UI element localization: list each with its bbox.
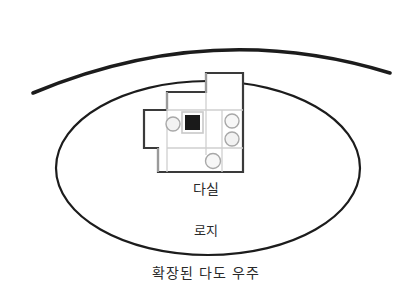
hearth-square — [185, 115, 200, 130]
diagram-svg — [0, 0, 412, 298]
plan-circle-right-upper — [225, 114, 239, 128]
diagram-canvas: 다실 로지 확장된 다도 우주 — [0, 0, 412, 298]
plan-circle-left — [166, 117, 180, 131]
plan-circle-bottom — [206, 154, 221, 169]
plan-circle-right-lower — [225, 132, 239, 146]
